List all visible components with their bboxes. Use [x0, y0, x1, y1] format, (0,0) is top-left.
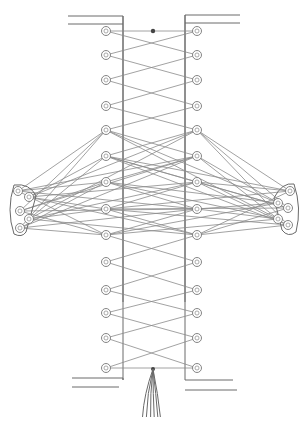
right-eyelet — [195, 29, 199, 33]
right-eyelet — [195, 336, 199, 340]
right-eyelet — [195, 78, 199, 82]
lace-loop — [106, 182, 278, 203]
right-eyelet — [195, 128, 199, 132]
left-cluster-eyelet — [27, 195, 31, 199]
lacing-drawing — [0, 0, 308, 427]
right-eyelet — [195, 288, 199, 292]
left-eyelet — [104, 53, 108, 57]
left-eyelet — [104, 336, 108, 340]
right-cluster-eyelet — [276, 217, 280, 221]
right-cluster-eyelet — [286, 206, 290, 210]
right-cluster-eyelet — [286, 223, 290, 227]
left-cluster-eyelet — [18, 209, 22, 213]
right-cluster-eyelet — [276, 201, 280, 205]
left-eyelet — [104, 180, 108, 184]
left-cluster-eyelet — [27, 217, 31, 221]
left-eyelet — [104, 233, 108, 237]
right-eyelet — [195, 154, 199, 158]
left-eyelet — [104, 260, 108, 264]
left-eyelet — [104, 29, 108, 33]
lace-loop — [20, 156, 197, 228]
right-eyelet — [195, 366, 199, 370]
right-cluster-eyelet — [288, 189, 292, 193]
left-eyelet — [104, 128, 108, 132]
left-eyelet — [104, 311, 108, 315]
left-eyelet — [104, 78, 108, 82]
right-eyelet — [195, 53, 199, 57]
right-eyelet — [195, 311, 199, 315]
left-eyelet — [104, 207, 108, 211]
right-eyelet — [195, 233, 199, 237]
right-eyelet — [195, 180, 199, 184]
left-eyelet — [104, 366, 108, 370]
left-cluster-eyelet — [16, 189, 20, 193]
left-eyelet — [104, 104, 108, 108]
lace-loop — [197, 225, 288, 235]
top-knot — [151, 29, 155, 33]
right-eyelet — [195, 104, 199, 108]
left-eyelet — [104, 288, 108, 292]
right-eyelet — [195, 207, 199, 211]
left-panel-bottom-edge — [72, 378, 123, 380]
lace-loop — [18, 130, 106, 191]
lace-loop — [106, 219, 278, 235]
right-eyelet — [195, 260, 199, 264]
corset-lacing-diagram — [0, 0, 308, 427]
left-cluster-eyelet — [18, 226, 22, 230]
left-eyelet — [104, 154, 108, 158]
